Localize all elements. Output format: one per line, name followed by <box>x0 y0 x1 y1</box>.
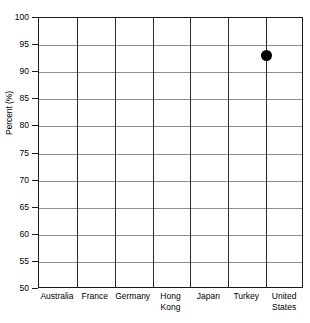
y-axis-title: Percent (%) <box>4 68 14 158</box>
gridline-horizontal <box>39 72 302 73</box>
gridline-horizontal <box>39 154 302 155</box>
y-axis-tick-label: 50 <box>3 284 29 293</box>
gridline-vertical <box>228 18 229 287</box>
y-axis-tick-label: 85 <box>3 94 29 103</box>
y-axis-tick-label: 90 <box>3 67 29 76</box>
y-axis-tick-label: 80 <box>3 121 29 130</box>
x-axis-label: Turkey <box>227 291 265 323</box>
gridline-horizontal <box>39 99 302 100</box>
y-axis-tick-label: 100 <box>3 13 29 22</box>
x-axis-label: Japan <box>189 291 227 323</box>
y-axis-tick-label: 65 <box>3 203 29 212</box>
gridline-vertical <box>115 18 116 287</box>
y-axis-tick-label: 75 <box>3 149 29 158</box>
y-axis-tick-label: 70 <box>3 176 29 185</box>
gridline-horizontal <box>39 126 302 127</box>
x-axis-category-labels: AustraliaFranceGermanyHong KongJapanTurk… <box>38 291 303 323</box>
gridline-vertical <box>153 18 154 287</box>
gridline-horizontal <box>39 208 302 209</box>
gridline-vertical <box>190 18 191 287</box>
gridline-horizontal <box>39 45 302 46</box>
x-axis-label: United States <box>265 291 303 323</box>
x-axis-label: Germany <box>114 291 152 323</box>
data-point <box>261 50 272 61</box>
y-axis-tick-label: 60 <box>3 230 29 239</box>
x-axis-label: Hong Kong <box>152 291 190 323</box>
y-axis-tick-mark <box>32 288 38 289</box>
plot-area <box>38 17 303 288</box>
gridline-horizontal <box>39 235 302 236</box>
x-axis-label: Australia <box>38 291 76 323</box>
gridline-vertical <box>77 18 78 287</box>
gridline-horizontal <box>39 181 302 182</box>
chart-container: Percent (%) 10095908580757065605550 Aust… <box>0 0 310 323</box>
y-axis-tick-label: 55 <box>3 257 29 266</box>
x-axis-label: France <box>76 291 114 323</box>
gridline-horizontal <box>39 262 302 263</box>
y-axis-tick-label: 95 <box>3 40 29 49</box>
